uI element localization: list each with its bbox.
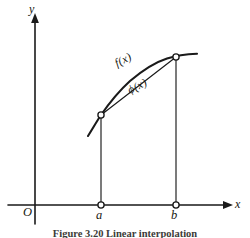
x-tick-label-b: b [171, 209, 177, 222]
origin-label: O [23, 206, 32, 219]
marker-curve-b [173, 54, 179, 60]
x-axis-arrow-icon [223, 201, 233, 209]
figure-caption: Figure 3.20 Linear interpolation [0, 228, 250, 238]
x-tick-label-a: a [96, 209, 102, 222]
curve-f-path [88, 54, 197, 136]
figure-graphic [0, 0, 250, 238]
figure-container: y x O a b f(x) ϕ(x) Figure 3.20 Linear i… [0, 0, 250, 238]
y-axis-label: y [29, 3, 34, 15]
x-axis-label: x [235, 198, 240, 210]
marker-curve-a [98, 112, 104, 118]
